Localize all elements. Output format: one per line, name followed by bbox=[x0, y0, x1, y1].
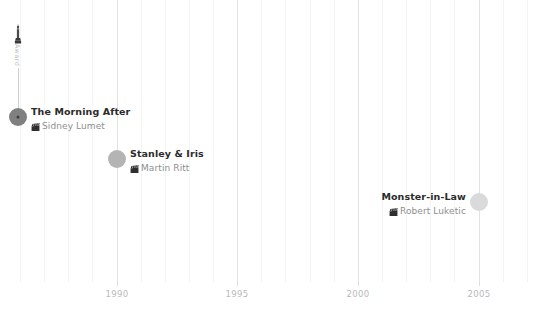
gridline-minor bbox=[454, 0, 455, 282]
gridline-major bbox=[237, 0, 238, 282]
x-axis-label: 2005 bbox=[468, 289, 491, 299]
x-axis-label: 1995 bbox=[226, 289, 249, 299]
movie-title: Monster-in-Law bbox=[0, 191, 466, 203]
data-point-marker[interactable] bbox=[470, 193, 488, 211]
data-point-label: Stanley & IrisMartin Ritt bbox=[130, 148, 204, 174]
gridline-major bbox=[117, 0, 118, 282]
director-row: Martin Ritt bbox=[130, 161, 204, 174]
x-axis-tick bbox=[479, 282, 480, 286]
gridline-major bbox=[358, 0, 359, 282]
timeline-chart: 1990199520002005AwardThe Morning AfterSi… bbox=[0, 0, 550, 321]
gridline-minor bbox=[285, 0, 286, 282]
gridline-minor bbox=[44, 0, 45, 282]
movie-title: The Morning After bbox=[31, 106, 130, 118]
gridline-minor bbox=[430, 0, 431, 282]
gridline-minor bbox=[92, 0, 93, 282]
gridline-minor bbox=[141, 0, 142, 282]
data-point-marker[interactable] bbox=[108, 150, 126, 168]
director-name: Robert Luketic bbox=[400, 206, 466, 216]
x-axis-tick bbox=[237, 282, 238, 286]
gridline-minor bbox=[334, 0, 335, 282]
gridline-minor bbox=[382, 0, 383, 282]
x-axis-tick bbox=[358, 282, 359, 286]
gridline-minor bbox=[406, 0, 407, 282]
x-axis-label: 1990 bbox=[106, 289, 129, 299]
gridline-major bbox=[479, 0, 480, 282]
gridline-minor bbox=[261, 0, 262, 282]
clapperboard-icon bbox=[31, 121, 40, 130]
gridline-minor bbox=[503, 0, 504, 282]
data-point-label: The Morning AfterSidney Lumet bbox=[31, 106, 130, 132]
clapperboard-icon bbox=[130, 163, 139, 172]
gridline-minor bbox=[68, 0, 69, 282]
director-row: Sidney Lumet bbox=[31, 119, 130, 132]
gridline-minor bbox=[189, 0, 190, 282]
data-point-label: Monster-in-LawRobert Luketic bbox=[0, 191, 466, 217]
director-row: Robert Luketic bbox=[0, 204, 466, 217]
data-point-center-dot bbox=[17, 116, 20, 119]
gridline-minor bbox=[165, 0, 166, 282]
award-vertical-label: Award bbox=[13, 44, 21, 66]
gridline-minor bbox=[310, 0, 311, 282]
clapperboard-icon bbox=[389, 206, 398, 215]
gridline-minor bbox=[527, 0, 528, 282]
gridline-minor bbox=[213, 0, 214, 282]
x-axis-tick bbox=[117, 282, 118, 286]
director-name: Martin Ritt bbox=[141, 163, 190, 173]
movie-title: Stanley & Iris bbox=[130, 148, 204, 160]
x-axis-label: 2000 bbox=[347, 289, 370, 299]
director-name: Sidney Lumet bbox=[42, 121, 105, 131]
